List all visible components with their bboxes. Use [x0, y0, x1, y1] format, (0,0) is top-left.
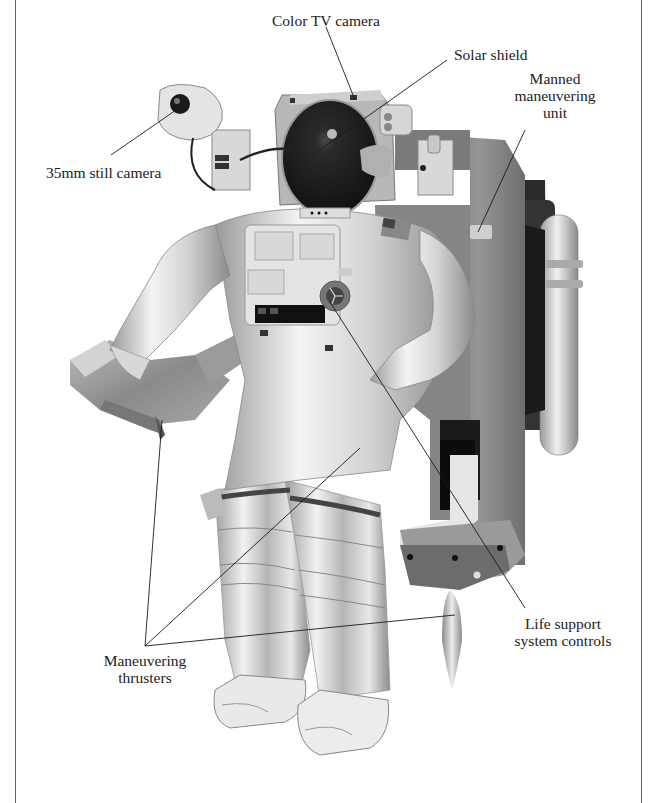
label-text: Color TV camera [272, 12, 380, 29]
label-text-line-2: maneuvering [510, 87, 600, 104]
label-text: 35mm still camera [46, 164, 161, 181]
label-text-line-3: unit [510, 104, 600, 121]
label-text-line-1: Maneuvering [95, 652, 195, 669]
label-solar-shield: Solar shield [454, 46, 528, 63]
label-life-support-system-controls: Life support system controls [508, 615, 618, 649]
leader-thruster-left [145, 420, 162, 646]
label-text-line-1: Manned [510, 70, 600, 87]
label-manned-maneuvering-unit: Manned maneuvering unit [510, 70, 600, 121]
torso [110, 209, 475, 490]
leader-color-tv-camera [326, 27, 355, 100]
label-text-line-2: thrusters [95, 669, 195, 686]
label-35mm-still-camera: 35mm still camera [46, 164, 161, 181]
label-text-line-2: system controls [508, 632, 618, 649]
legs [200, 480, 390, 755]
label-color-tv-camera: Color TV camera [272, 12, 380, 29]
label-text-line-1: Life support [508, 615, 618, 632]
label-maneuvering-thrusters: Maneuvering thrusters [95, 652, 195, 686]
label-text: Solar shield [454, 46, 528, 63]
leader-35mm-camera [111, 110, 176, 155]
